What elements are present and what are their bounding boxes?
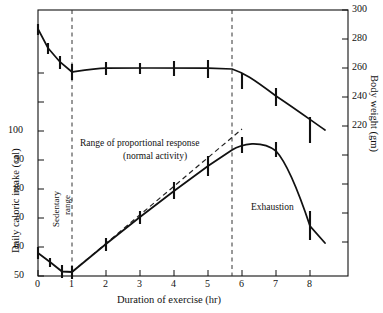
annotation-proportional-line1: Range of proportional response: [80, 139, 200, 149]
chart-figure: 50 60 70 80 90 100 300 280 260 240 220 0…: [0, 0, 383, 313]
annotation-sedentary-line2: range: [63, 195, 72, 215]
annotation-proportional-line2: (normal activity): [123, 152, 187, 162]
y-right-tick-240: 240: [352, 91, 367, 102]
y-right-tick-280: 280: [352, 33, 367, 44]
x-axis-title: Duration of exercise (hr): [117, 294, 221, 305]
x-tick-2: 2: [103, 279, 108, 290]
x-tick-1: 1: [69, 279, 74, 290]
x-ticks: [38, 270, 310, 276]
y-right-tick-220: 220: [352, 120, 367, 131]
x-tick-0: 0: [35, 279, 40, 290]
error-bars-body-weight: [38, 24, 310, 143]
y-left-ticks: [38, 73, 44, 276]
x-tick-5: 5: [205, 279, 210, 290]
x-tick-7: 7: [273, 279, 278, 290]
series-body-weight: [38, 24, 325, 143]
y-right-ticks: [342, 10, 348, 242]
annotation-sedentary-line1: Sedentary: [52, 191, 61, 227]
x-tick-4: 4: [171, 279, 176, 290]
x-tick-6: 6: [239, 279, 244, 290]
x-tick-8: 8: [307, 279, 312, 290]
y-right-tick-260: 260: [352, 62, 367, 73]
y-left-axis-title: Daily caloric intake (cal): [10, 148, 21, 253]
y-right-tick-300: 300: [352, 4, 367, 15]
annotation-exhaustion: Exhaustion: [251, 203, 294, 213]
y-right-axis-title: Body weight (gm): [369, 75, 380, 152]
y-left-tick-100: 100: [8, 125, 23, 136]
x-tick-3: 3: [137, 279, 142, 290]
y-left-tick-50: 50: [14, 270, 24, 281]
chart-plot-area: [0, 0, 383, 313]
